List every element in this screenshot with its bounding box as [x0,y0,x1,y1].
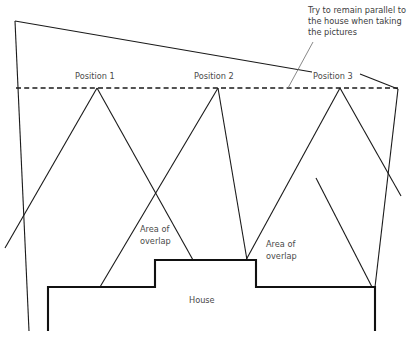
overlap-label-2-line-2: overlap [266,251,297,261]
frame-right-line [375,89,398,287]
frame-top-slanted-line [15,21,312,72]
diagram-canvas: Position 1 Position 2 Position 3 Try to … [0,0,412,345]
position-1-ray-right [97,88,193,260]
position-2-ray-left [100,88,218,287]
overlap-label-1-line-1: Area of [140,224,170,234]
frame-left-line [15,21,29,331]
position-3-ray-left [246,88,340,260]
camera-positions-diagram: Position 1 Position 2 Position 3 Try to … [0,0,412,345]
position-1-label: Position 1 [75,71,115,81]
overlap-label-1-line-2: overlap [140,236,171,246]
position-2-label: Position 2 [194,71,234,81]
overlap-label-2-line-1: Area of [266,239,296,249]
position-2-ray-right [218,88,247,260]
note-line-2: the house when taking [308,16,402,26]
house-label: House [189,295,215,305]
frame-top-right-line [360,74,398,89]
note-leader-line [288,42,313,88]
position-3-label: Position 3 [313,71,353,81]
note-line-3: the pictures [308,27,357,37]
position-3-ray-to-house [316,178,372,287]
note-line-1: Try to remain parallel to [307,5,406,15]
